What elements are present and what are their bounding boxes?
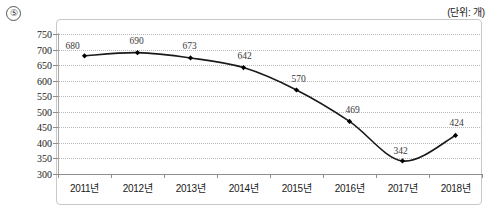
data-point-label: 680: [65, 41, 79, 51]
data-point-label: 570: [291, 74, 305, 84]
data-point-marker: [135, 50, 140, 55]
data-point-label: 673: [182, 41, 196, 51]
data-point-label: 642: [237, 51, 251, 61]
series-line: [85, 53, 456, 161]
data-point-label: 690: [129, 36, 143, 46]
line-series-layer: [0, 0, 499, 216]
data-point-marker: [188, 55, 193, 60]
data-point-marker: [400, 158, 405, 163]
data-point-label: 342: [393, 146, 407, 156]
data-point-label: 424: [449, 118, 463, 128]
data-point-marker: [82, 53, 87, 58]
data-point-label: 469: [345, 105, 359, 115]
chart-page: ⑤ (단위: 개) 300350400450500550600650700750…: [0, 0, 499, 216]
data-point-marker: [241, 65, 246, 70]
